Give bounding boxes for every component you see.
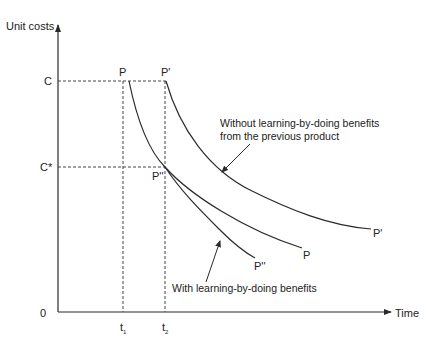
x-axis-label: Time	[395, 307, 419, 319]
x-tick-t1: t1	[120, 321, 127, 335]
label-p-prime-end: P'	[373, 227, 382, 239]
y-tick-c: C	[44, 75, 52, 87]
curve-p	[129, 81, 302, 248]
annotation-without-line1: Without learning-by-doing benefits	[220, 117, 379, 129]
x-tick-t2: t2	[162, 321, 169, 335]
with-arrow	[206, 241, 220, 282]
label-p-prime-start: P'	[161, 66, 170, 78]
guide-lines	[58, 81, 166, 312]
label-p-end: P	[303, 249, 310, 261]
origin-label: 0	[40, 307, 46, 319]
label-p-double-prime-end: P''	[254, 260, 266, 272]
y-axis-label: Unit costs	[6, 20, 55, 32]
label-p-double-prime-mid: P''	[152, 170, 164, 182]
annotation-without-line2: from the previous product	[220, 130, 339, 142]
learning-curve-diagram: Unit costs Time 0 C C* t1 t2 P P' P'' P'…	[0, 0, 426, 346]
without-arrow	[222, 144, 250, 172]
label-p-start: P	[119, 66, 126, 78]
annotation-with: With learning-by-doing benefits	[172, 282, 317, 294]
y-tick-c-star: C*	[40, 161, 53, 173]
